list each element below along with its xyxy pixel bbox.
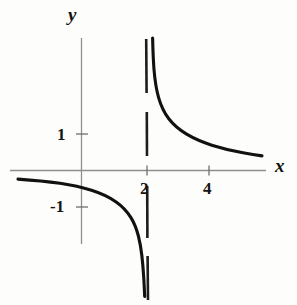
x-tick-label-4: 4 [203,180,212,197]
y-axis-label: y [68,5,76,24]
graph-figure: y x 1 -1 2 4 [0,0,297,305]
x-axis-label: x [275,156,285,175]
y-tick-label-negative-1: -1 [50,198,64,215]
x-tick-label-2: 2 [140,180,149,197]
curve-right-branch [153,38,262,156]
plot-canvas [0,0,297,305]
y-tick-label-1: 1 [57,126,66,143]
